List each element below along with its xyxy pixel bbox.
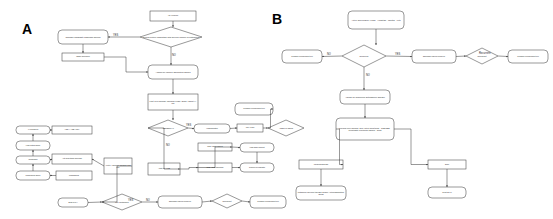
flow-edge-a4-a5 xyxy=(104,57,148,72)
flow-node-b12 xyxy=(428,187,466,198)
flow-node-a8 xyxy=(194,124,230,133)
flow-node-a3 xyxy=(58,30,108,44)
flow-edge-label: Recurrent xyxy=(479,53,490,56)
flow-node-b3 xyxy=(282,50,322,63)
flow-node-b10 xyxy=(428,160,466,169)
flow-node-a16 xyxy=(52,154,92,164)
flow-node-b2 xyxy=(342,45,386,67)
flow-node-a12 xyxy=(16,126,50,134)
flow-node-b11 xyxy=(296,186,346,200)
flow-edge-label: YES xyxy=(113,35,118,38)
flow-edge-a7-a8 xyxy=(188,128,194,129)
flow-edge-a21-a22 xyxy=(232,147,240,148)
flow-node-a29 xyxy=(250,196,286,208)
flow-edge-label: YES xyxy=(186,125,191,128)
flow-edge-label: NO xyxy=(366,75,370,78)
flow-edge-label: YES xyxy=(128,200,133,203)
flow-node-b1 xyxy=(348,11,404,29)
flow-edge-b8-b10 xyxy=(394,129,428,165)
flow-edge-a19-a16 xyxy=(92,159,104,166)
flow-edge-a8-a9 xyxy=(230,128,237,129)
flow-node-a6 xyxy=(148,94,198,110)
flow-node-a14 xyxy=(16,141,50,150)
flow-node-a5 xyxy=(148,65,198,79)
flow-edge-a28-a29 xyxy=(242,201,250,202)
flow-node-a18 xyxy=(56,171,92,180)
flowchart-edges xyxy=(0,0,553,219)
flow-edge-a27-a28 xyxy=(202,201,212,202)
flow-node-a17 xyxy=(16,171,50,180)
flow-node-a1 xyxy=(150,11,196,21)
flow-edge-label: NO xyxy=(146,200,150,203)
flow-node-b4 xyxy=(412,50,456,63)
flow-edge-label: NO xyxy=(172,55,176,58)
flow-node-a25 xyxy=(58,198,88,207)
figure-canvas: A B ARI evidenceClinical picture compati… xyxy=(0,0,553,219)
flow-edge-b2-b3 xyxy=(322,56,342,57)
flow-edge-label: NO xyxy=(327,54,331,57)
flow-node-b7 xyxy=(340,90,390,104)
flow-node-b9 xyxy=(299,160,343,169)
flow-edge-a15-a16 xyxy=(50,159,52,160)
flow-node-a22 xyxy=(240,143,274,152)
flow-node-b6 xyxy=(508,50,548,63)
flow-node-a10 xyxy=(268,120,304,136)
flow-node-a4 xyxy=(62,53,104,61)
flow-node-a27 xyxy=(158,196,202,208)
flow-edge-a25-a26 xyxy=(88,202,102,203)
flow-edge-b4-b5 xyxy=(456,56,466,57)
flow-node-a9 xyxy=(237,124,263,132)
flow-node-b8 xyxy=(336,118,394,140)
flow-edge-label: YES xyxy=(395,54,400,57)
flow-node-b5 xyxy=(466,48,498,64)
flow-node-a13 xyxy=(52,126,92,134)
flow-node-a28 xyxy=(212,194,242,208)
flow-node-a11 xyxy=(235,103,273,115)
flow-node-a2 xyxy=(140,27,202,47)
flow-edge-b5-b6 xyxy=(498,56,508,57)
flow-node-a15 xyxy=(16,156,50,164)
flow-node-a24 xyxy=(240,163,274,172)
flow-edge-a20-a23 xyxy=(180,168,198,170)
flow-edge-label: NO xyxy=(166,145,170,148)
